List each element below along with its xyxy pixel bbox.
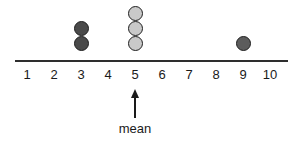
dot-plot: 12345678910 mean (0, 0, 299, 146)
dot-value-5-stack-2 (128, 21, 143, 36)
tick-label-7: 7 (177, 67, 201, 83)
dot-value-3-stack-2 (74, 21, 89, 36)
tick-label-9: 9 (231, 67, 255, 83)
tick-label-8: 8 (204, 67, 228, 83)
dot-value-5-stack-3 (128, 6, 143, 21)
tick-label-5: 5 (123, 67, 147, 83)
dot-value-3-stack-1 (74, 36, 89, 51)
mean-annotation-label: mean (90, 121, 180, 137)
tick-label-6: 6 (150, 67, 174, 83)
number-line-axis (15, 60, 288, 62)
dot-value-5-stack-1 (128, 36, 143, 51)
arrow-shaft (134, 96, 136, 118)
tick-label-1: 1 (15, 67, 39, 83)
tick-label-4: 4 (96, 67, 120, 83)
tick-label-10: 10 (258, 67, 282, 83)
dot-value-9-stack-1 (236, 36, 251, 51)
tick-label-2: 2 (42, 67, 66, 83)
tick-label-3: 3 (69, 67, 93, 83)
